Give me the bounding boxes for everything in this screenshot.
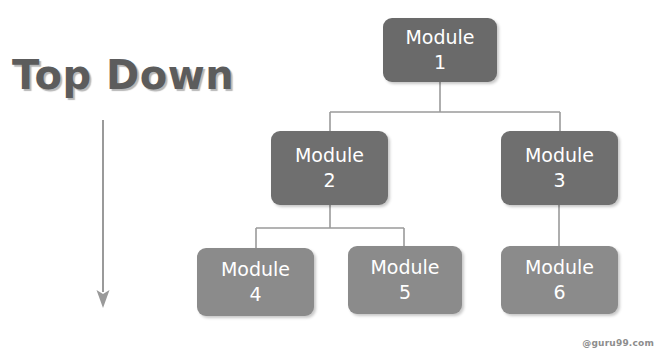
node-module-1[interactable]: Module 1 <box>383 18 497 82</box>
node-number: 6 <box>553 280 565 305</box>
node-number: 5 <box>399 280 411 305</box>
node-module-5[interactable]: Module 5 <box>348 246 462 314</box>
diagram-canvas: Top Down Module 1 Module 2 Mod <box>0 0 661 354</box>
node-module-2[interactable]: Module 2 <box>271 131 388 205</box>
node-number: 3 <box>553 168 565 193</box>
node-number: 1 <box>434 50 446 75</box>
page-title: Top Down <box>12 52 234 98</box>
node-number: 4 <box>249 282 261 307</box>
node-label: Module <box>405 25 474 50</box>
node-module-3[interactable]: Module 3 <box>501 131 618 205</box>
down-arrow-icon <box>78 118 130 310</box>
node-module-6[interactable]: Module 6 <box>501 246 618 314</box>
node-label: Module <box>295 143 364 168</box>
node-label: Module <box>525 143 594 168</box>
node-label: Module <box>370 255 439 280</box>
node-label: Module <box>525 255 594 280</box>
node-label: Module <box>221 257 290 282</box>
node-number: 2 <box>323 168 335 193</box>
watermark: @guru99.com <box>582 338 654 348</box>
node-module-4[interactable]: Module 4 <box>197 248 314 316</box>
